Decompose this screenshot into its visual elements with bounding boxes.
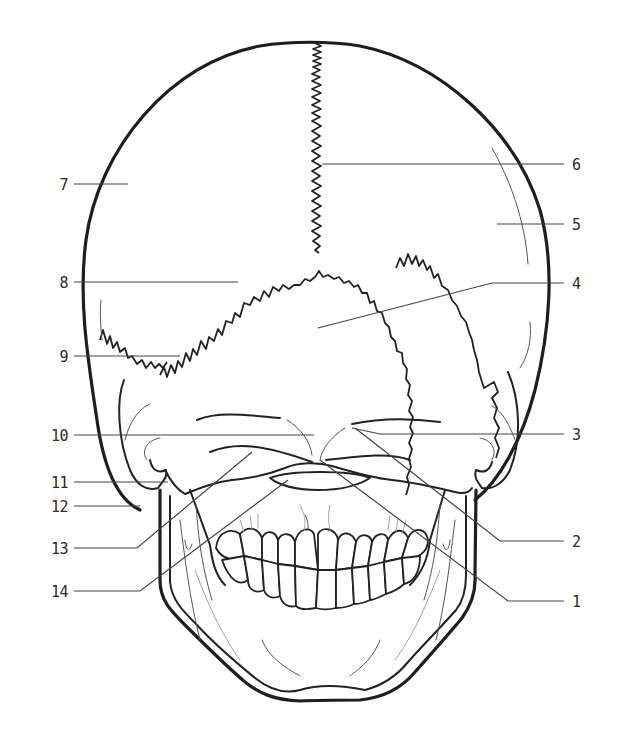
parietal-edge-right: [520, 322, 531, 368]
callout-2: 2: [572, 534, 581, 550]
superior-nuchal-line-right: [352, 419, 440, 424]
callout-7: 7: [38, 177, 68, 193]
callout-13: 13: [38, 541, 68, 557]
callout-9: 9: [38, 349, 68, 365]
skull-drawing: [0, 0, 630, 747]
parietal-eminence-right: [492, 148, 528, 264]
callout-6: 6: [572, 157, 581, 173]
foramen-magnum: [270, 472, 370, 490]
callout-11: 11: [38, 475, 68, 491]
parietal-edge-left: [100, 300, 102, 340]
sagittal-suture: [312, 43, 321, 253]
lambdoid-suture: [100, 254, 499, 495]
callout-4: 4: [572, 276, 581, 292]
inferior-nuchal-line-right: [326, 455, 410, 460]
callout-12: 12: [38, 499, 68, 515]
superior-nuchal-line-left: [197, 415, 280, 421]
skull-diagram: 1 2 3 4 5 6 7 8 9 10 11 12 13 14: [0, 0, 630, 747]
callout-8: 8: [38, 275, 68, 291]
inferior-nuchal-line-left: [210, 446, 312, 462]
left-mastoid-detail: [125, 404, 160, 460]
callout-5: 5: [572, 217, 581, 233]
callout-10: 10: [38, 428, 68, 444]
callout-3: 3: [572, 427, 581, 443]
callout-1: 1: [572, 594, 581, 610]
external-occipital-crest: [287, 420, 345, 460]
callout-14: 14: [38, 584, 68, 600]
